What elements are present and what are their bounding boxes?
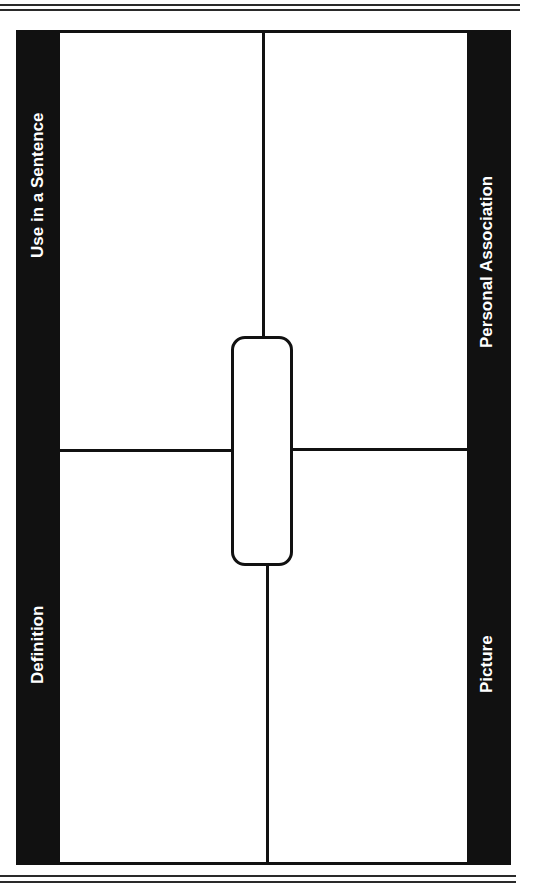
bottom-rule-2 <box>0 881 516 883</box>
quadrant-personal-association[interactable] <box>265 33 467 448</box>
top-rule-1 <box>0 4 520 6</box>
label-picture: Picture <box>477 635 497 693</box>
quadrant-use-in-sentence[interactable] <box>63 33 262 449</box>
quadrant-definition[interactable] <box>63 452 266 862</box>
top-rule-2 <box>0 9 520 11</box>
label-personal-association: Personal Association <box>477 176 497 348</box>
bottom-rule-1 <box>0 875 516 877</box>
label-definition: Definition <box>28 606 48 684</box>
quadrant-picture[interactable] <box>269 451 467 862</box>
right-label-band <box>467 30 511 865</box>
label-use-in-sentence: Use in a Sentence <box>28 112 48 258</box>
